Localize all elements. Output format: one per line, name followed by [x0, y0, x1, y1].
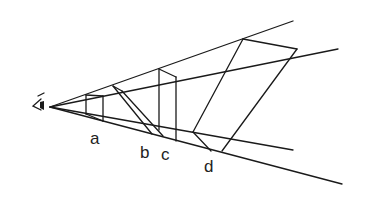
- label-c: c: [161, 145, 170, 164]
- eye-icon: [33, 93, 44, 110]
- label-d: d: [204, 157, 213, 176]
- perspective-diagram: a b c d: [0, 0, 375, 198]
- plane-d: [193, 39, 297, 151]
- plane-b: [113, 86, 163, 136]
- label-b: b: [140, 143, 149, 162]
- plane-c: [159, 69, 176, 141]
- ray-top-outer: [50, 21, 293, 107]
- projection-rays: [50, 21, 342, 184]
- ray-top-inner: [50, 49, 338, 107]
- label-a: a: [90, 129, 100, 148]
